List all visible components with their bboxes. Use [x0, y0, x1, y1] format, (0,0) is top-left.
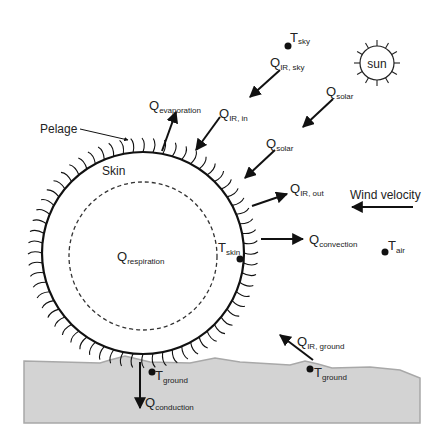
- q-ir-out-label: QIR, out: [290, 181, 324, 198]
- q-solar-top-label: Qsolar: [326, 84, 354, 101]
- evaporation-arrow: [162, 112, 176, 151]
- t-air-label: Tair: [388, 238, 405, 255]
- ir-in-arrow: [196, 117, 220, 150]
- skin-label: Skin: [102, 164, 125, 178]
- t-sky-label: Tsky: [290, 30, 310, 46]
- skin-circle: [42, 152, 244, 354]
- wind-velocity-label: Wind velocity: [350, 188, 421, 202]
- q-ir-ground-label: QIR, ground: [297, 334, 344, 351]
- q-ir-in-label: QIR, in: [219, 106, 248, 123]
- pelage-label: Pelage: [40, 122, 78, 136]
- ir-out-arrow: [252, 194, 287, 206]
- pelage-pointer: [80, 129, 128, 140]
- q-solar-mid-label: Qsolar: [266, 136, 294, 153]
- t-ground-right-dot: [307, 366, 314, 373]
- solar-top-arrow: [303, 99, 333, 127]
- ground: [24, 356, 420, 423]
- ir-sky-arrow: [250, 70, 280, 97]
- q-ir-sky-label: QIR, sky: [270, 55, 305, 72]
- q-evaporation-label: Qevaporation: [149, 98, 201, 115]
- heat-balance-diagram: sun Pelage Skin Qevaporation QIR, sky QI…: [0, 0, 448, 446]
- solar-mid-arrow: [245, 150, 275, 178]
- q-convection-label: Qconvection: [309, 232, 357, 249]
- sun-icon: sun: [354, 40, 400, 86]
- sun-label: sun: [367, 57, 386, 71]
